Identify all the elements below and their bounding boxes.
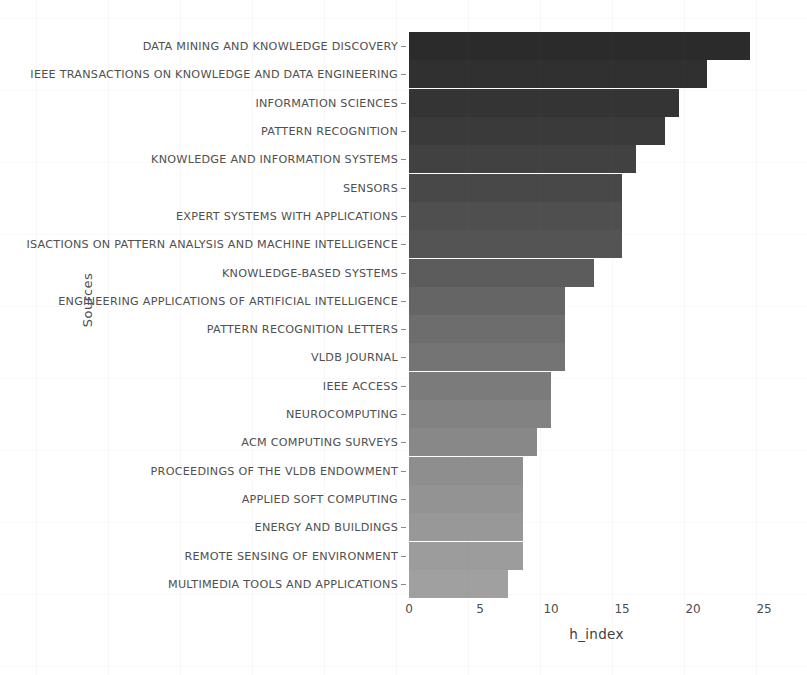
x-axis: h_index 0510152025 — [409, 600, 784, 646]
bar-row: REMOTE SENSING OF ENVIRONMENT — [409, 542, 784, 570]
bar-row: PATTERN RECOGNITION — [409, 117, 784, 145]
y-axis-tick-mark — [401, 273, 406, 274]
y-axis-tick-label: PROCEEDINGS OF THE VLDB ENDOWMENT — [151, 464, 398, 477]
bar — [409, 32, 750, 60]
bar — [409, 570, 508, 598]
bar-row: MULTIMEDIA TOOLS AND APPLICATIONS — [409, 570, 784, 598]
bar-row: PATTERN RECOGNITION LETTERS — [409, 315, 784, 343]
x-axis-tick-label: 20 — [685, 602, 700, 616]
bar-row: NEUROCOMPUTING — [409, 400, 784, 428]
y-axis-tick-label: ISACTIONS ON PATTERN ANALYSIS AND MACHIN… — [26, 238, 398, 251]
bar-row: IEEE TRANSACTIONS ON KNOWLEDGE AND DATA … — [409, 60, 784, 88]
bar — [409, 400, 551, 428]
y-axis-tick-mark — [401, 216, 406, 217]
bar-row: APPLIED SOFT COMPUTING — [409, 485, 784, 513]
y-axis-tick-mark — [401, 584, 406, 585]
x-axis-tick-label: 15 — [614, 602, 629, 616]
bar-row: INFORMATION SCIENCES — [409, 89, 784, 117]
bar — [409, 542, 523, 570]
bar-chart-figure: Sources DATA MINING AND KNOWLEDGE DISCOV… — [0, 0, 807, 675]
y-axis-tick-mark — [401, 244, 406, 245]
y-axis-tick-label: KNOWLEDGE-BASED SYSTEMS — [222, 266, 398, 279]
bar-row: ENGINEERING APPLICATIONS OF ARTIFICIAL I… — [409, 287, 784, 315]
y-axis-tick-label: ENERGY AND BUILDINGS — [255, 521, 398, 534]
y-axis-tick-mark — [401, 301, 406, 302]
y-axis-tick-mark — [401, 527, 406, 528]
y-axis-tick-mark — [401, 131, 406, 132]
bar — [409, 145, 636, 173]
bar — [409, 60, 707, 88]
bar — [409, 428, 537, 456]
y-axis-tick-label: VLDB JOURNAL — [311, 351, 398, 364]
y-axis-tick-mark — [401, 499, 406, 500]
y-axis-tick-label: ENGINEERING APPLICATIONS OF ARTIFICIAL I… — [58, 294, 398, 307]
bar — [409, 230, 622, 258]
x-axis-tick-label: 25 — [756, 602, 771, 616]
bar-row: SENSORS — [409, 174, 784, 202]
bar — [409, 315, 565, 343]
y-axis-tick-label: SENSORS — [343, 181, 398, 194]
y-axis-tick-label: PATTERN RECOGNITION LETTERS — [207, 323, 398, 336]
y-axis-tick-label: REMOTE SENSING OF ENVIRONMENT — [184, 549, 398, 562]
bar — [409, 457, 523, 485]
y-axis-tick-label: ACM COMPUTING SURVEYS — [241, 436, 398, 449]
y-axis-tick-label: NEUROCOMPUTING — [286, 408, 398, 421]
bar — [409, 202, 622, 230]
bar-row: KNOWLEDGE AND INFORMATION SYSTEMS — [409, 145, 784, 173]
bar-row: KNOWLEDGE-BASED SYSTEMS — [409, 259, 784, 287]
bar — [409, 485, 523, 513]
bar — [409, 174, 622, 202]
x-axis-tick-label: 10 — [543, 602, 558, 616]
bar-row: ENERGY AND BUILDINGS — [409, 513, 784, 541]
y-axis-tick-mark — [401, 357, 406, 358]
y-axis-tick-mark — [401, 471, 406, 472]
y-axis-tick-label: KNOWLEDGE AND INFORMATION SYSTEMS — [151, 153, 398, 166]
bar-row: EXPERT SYSTEMS WITH APPLICATIONS — [409, 202, 784, 230]
y-axis-tick-mark — [401, 103, 406, 104]
y-axis-tick-label: MULTIMEDIA TOOLS AND APPLICATIONS — [168, 577, 398, 590]
y-axis-tick-mark — [401, 329, 406, 330]
bar-row: DATA MINING AND KNOWLEDGE DISCOVERY — [409, 32, 784, 60]
bar-row: VLDB JOURNAL — [409, 343, 784, 371]
bar-row: IEEE ACCESS — [409, 372, 784, 400]
y-axis-tick-mark — [401, 46, 406, 47]
y-axis-tick-mark — [401, 188, 406, 189]
y-axis-tick-mark — [401, 74, 406, 75]
y-axis-tick-label: IEEE ACCESS — [323, 379, 398, 392]
y-axis-tick-label: PATTERN RECOGNITION — [261, 125, 398, 138]
bar-row: ISACTIONS ON PATTERN ANALYSIS AND MACHIN… — [409, 230, 784, 258]
bar — [409, 287, 565, 315]
bar-row: PROCEEDINGS OF THE VLDB ENDOWMENT — [409, 457, 784, 485]
y-axis-tick-label: EXPERT SYSTEMS WITH APPLICATIONS — [176, 209, 398, 222]
y-axis-tick-label: IEEE TRANSACTIONS ON KNOWLEDGE AND DATA … — [30, 68, 398, 81]
bar — [409, 117, 665, 145]
bar — [409, 372, 551, 400]
bar — [409, 513, 523, 541]
x-axis-tick-label: 5 — [476, 602, 484, 616]
y-axis-tick-mark — [401, 556, 406, 557]
bar — [409, 89, 679, 117]
x-axis-title: h_index — [409, 626, 784, 642]
y-axis-tick-label: INFORMATION SCIENCES — [255, 96, 398, 109]
bar — [409, 343, 565, 371]
y-axis-tick-label: APPLIED SOFT COMPUTING — [242, 492, 398, 505]
y-axis-tick-mark — [401, 414, 406, 415]
plot-area: DATA MINING AND KNOWLEDGE DISCOVERYIEEE … — [409, 32, 784, 598]
bar-row: ACM COMPUTING SURVEYS — [409, 428, 784, 456]
y-axis-tick-mark — [401, 442, 406, 443]
bar — [409, 259, 594, 287]
x-axis-tick-label: 0 — [405, 602, 413, 616]
y-axis-tick-mark — [401, 159, 406, 160]
y-axis-tick-mark — [401, 386, 406, 387]
y-axis-tick-label: DATA MINING AND KNOWLEDGE DISCOVERY — [143, 40, 398, 53]
